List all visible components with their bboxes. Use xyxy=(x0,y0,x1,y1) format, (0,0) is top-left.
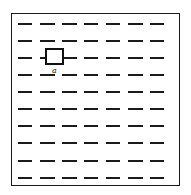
dash-row xyxy=(12,40,179,42)
dash xyxy=(40,91,55,93)
dash xyxy=(18,74,32,76)
dash-row xyxy=(12,57,179,59)
dash xyxy=(106,125,120,127)
dash xyxy=(106,142,120,144)
dash xyxy=(106,74,120,76)
dash xyxy=(106,160,120,162)
dash xyxy=(128,142,143,144)
dash xyxy=(106,23,120,25)
dash xyxy=(18,40,32,42)
dash xyxy=(62,40,77,42)
dash xyxy=(128,91,143,93)
dash xyxy=(106,40,120,42)
dash xyxy=(128,57,143,59)
dash xyxy=(18,23,32,25)
dash xyxy=(150,160,164,162)
dash xyxy=(128,74,143,76)
square-marker xyxy=(45,48,64,65)
dash xyxy=(150,57,164,59)
dash xyxy=(40,142,55,144)
dash xyxy=(150,125,164,127)
dash-row xyxy=(12,142,179,144)
dash xyxy=(40,160,55,162)
dash xyxy=(18,142,32,144)
dash xyxy=(62,142,77,144)
dash-row xyxy=(12,108,179,110)
dash xyxy=(128,177,143,179)
dash xyxy=(18,108,32,110)
dash xyxy=(84,125,98,127)
dash xyxy=(150,91,164,93)
dash xyxy=(106,108,120,110)
dash xyxy=(84,160,98,162)
dash xyxy=(18,160,32,162)
dash xyxy=(84,177,98,179)
dash xyxy=(84,142,98,144)
dash xyxy=(128,160,143,162)
dash xyxy=(128,125,143,127)
dash xyxy=(150,74,164,76)
dash-row xyxy=(12,160,179,162)
dash xyxy=(128,23,143,25)
dash xyxy=(150,40,164,42)
dash-row xyxy=(12,177,179,179)
dash xyxy=(150,108,164,110)
dash xyxy=(84,74,98,76)
dash xyxy=(18,91,32,93)
dash xyxy=(106,57,120,59)
dash xyxy=(84,57,98,59)
dash xyxy=(106,91,120,93)
dash xyxy=(84,108,98,110)
dash xyxy=(128,40,143,42)
dash xyxy=(150,177,164,179)
dash xyxy=(84,91,98,93)
diagram-frame: a xyxy=(11,13,180,186)
dash xyxy=(62,74,77,76)
dash xyxy=(40,108,55,110)
dash xyxy=(40,125,55,127)
dash xyxy=(62,160,77,162)
dash xyxy=(62,23,77,25)
dash-row xyxy=(12,74,179,76)
dash xyxy=(18,57,32,59)
dash xyxy=(150,23,164,25)
dash xyxy=(106,177,120,179)
dash xyxy=(40,177,55,179)
dash xyxy=(150,142,164,144)
dash-row xyxy=(12,125,179,127)
dash xyxy=(18,125,32,127)
dash xyxy=(40,23,55,25)
dash xyxy=(62,177,77,179)
marker-label: a xyxy=(52,66,57,75)
dash xyxy=(62,91,77,93)
dash xyxy=(40,40,55,42)
dash xyxy=(62,108,77,110)
dash xyxy=(84,40,98,42)
dash xyxy=(62,57,77,59)
dash xyxy=(84,23,98,25)
dash xyxy=(18,177,32,179)
dash-row xyxy=(12,23,179,25)
dash-row xyxy=(12,91,179,93)
dash xyxy=(62,125,77,127)
dash xyxy=(128,108,143,110)
